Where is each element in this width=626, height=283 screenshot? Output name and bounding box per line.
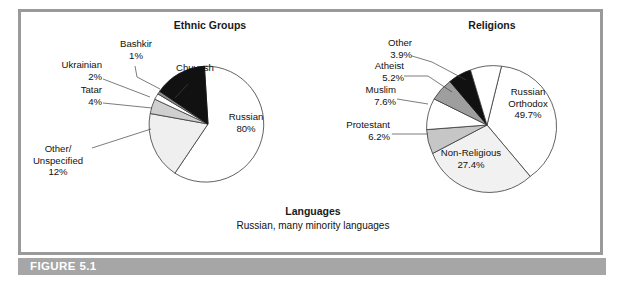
pie-label-russian: Russian 80% xyxy=(213,111,279,134)
pie-label-protestant-name: Protestant xyxy=(310,119,390,131)
languages-title: Languages xyxy=(0,205,626,217)
pie-label-russian-orthodox-name1: Russian xyxy=(492,86,564,98)
pie-label-atheist-value: 5.2% xyxy=(332,72,404,84)
pie-label-protestant-value: 6.2% xyxy=(310,131,390,143)
languages-value: Russian, many minority languages xyxy=(0,220,626,231)
pie-label-russian-orthodox: Russian Orthodox 49.7% xyxy=(492,86,564,121)
pie-label-bashkir-name: Bashkir xyxy=(98,38,174,50)
pie-label-chuvash-value: 1% xyxy=(160,74,230,86)
pie-label-other-unspecified-name1: Other/ xyxy=(20,143,96,155)
pie-label-bashkir-value: 1% xyxy=(98,50,174,62)
pie-label-muslim: Muslim 7.6% xyxy=(330,84,396,107)
pie-label-ukrainian: Ukrainian 2% xyxy=(22,59,102,82)
pie-label-russian-value: 80% xyxy=(213,123,279,135)
pie-label-atheist-name: Atheist xyxy=(332,60,404,72)
pie-label-tatar-value: 4% xyxy=(30,96,102,108)
pie-label-other-unspecified-value: 12% xyxy=(20,166,96,178)
pie-label-atheist: Atheist 5.2% xyxy=(332,60,404,83)
pie-label-tatar: Tatar 4% xyxy=(30,84,102,107)
pie-label-russian-orthodox-value: 49.7% xyxy=(492,109,564,121)
pie-label-other: Other 3.9% xyxy=(340,37,412,60)
pie-label-tatar-name: Tatar xyxy=(30,84,102,96)
pie-label-non-religious-value: 27.4% xyxy=(425,159,517,171)
pie-label-other-unspecified-name2: Unspecified xyxy=(20,155,96,167)
pie-label-ukrainian-name: Ukrainian xyxy=(22,59,102,71)
pie-label-muslim-value: 7.6% xyxy=(330,96,396,108)
chart-title-ethnic-groups: Ethnic Groups xyxy=(150,19,270,31)
figure-number-label: FIGURE 5.1 xyxy=(30,260,97,272)
pie-label-russian-name: Russian xyxy=(213,111,279,123)
pie-label-other-value: 3.9% xyxy=(340,49,412,61)
chart-title-religions: Religions xyxy=(432,19,552,31)
pie-label-muslim-name: Muslim xyxy=(330,84,396,96)
pie-label-protestant: Protestant 6.2% xyxy=(310,119,390,142)
pie-label-ukrainian-value: 2% xyxy=(22,71,102,83)
figure-number-bar: FIGURE 5.1 xyxy=(18,258,606,275)
pie-label-russian-orthodox-name2: Orthodox xyxy=(492,98,564,110)
figure-container: Ethnic Groups Religions Bashkir 1% Ukrai… xyxy=(0,0,626,283)
pie-label-chuvash-name: Chuvash xyxy=(160,62,230,74)
pie-label-bashkir: Bashkir 1% xyxy=(98,38,174,61)
pie-label-non-religious-name: Non-Religious xyxy=(425,147,517,159)
pie-label-chuvash: Chuvash 1% xyxy=(160,62,230,85)
pie-label-non-religious: Non-Religious 27.4% xyxy=(425,147,517,170)
pie-label-other-name: Other xyxy=(340,37,412,49)
pie-label-other-unspecified: Other/ Unspecified 12% xyxy=(20,143,96,178)
